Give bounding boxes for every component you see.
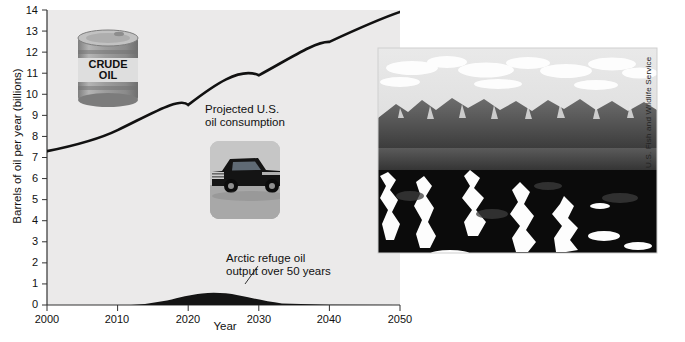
y-tick-label: 2	[8, 256, 38, 268]
x-tick-label: 2050	[378, 313, 422, 325]
annotation-projected-consumption: Projected U.S. oil consumption	[205, 103, 285, 129]
series-arctic-refuge-area	[47, 293, 400, 305]
arctic-photo-graphic	[378, 48, 658, 258]
y-tick-label: 14	[8, 4, 38, 16]
figure-oil-consumption: CRUDE OIL	[0, 0, 685, 342]
x-axis-label: Year	[180, 320, 270, 332]
x-tick-label: 2040	[307, 313, 351, 325]
annotation-line-2: oil consumption	[205, 116, 285, 129]
y-tick-label: 0	[8, 298, 38, 310]
pickup-truck-graphic	[210, 141, 288, 219]
annotation-line-1: Projected U.S.	[205, 103, 285, 116]
x-tick-label: 2000	[25, 313, 69, 325]
photo-credit: U.S. Fish and Wildlife Service	[644, 48, 653, 168]
annotation-arctic-refuge: Arctic refuge oil output over 50 years	[226, 252, 331, 278]
y-tick-label: 1	[8, 277, 38, 289]
x-tick-label: 2010	[95, 313, 139, 325]
y-axis-label: Barrels of oil per year (billions)	[11, 36, 23, 256]
annotation-line-1: Arctic refuge oil	[226, 252, 331, 265]
crude-oil-barrel-graphic: CRUDE OIL	[78, 30, 138, 107]
barrel-label-line2: OIL	[99, 69, 118, 81]
chart-canvas: CRUDE OIL	[0, 0, 685, 342]
annotation-line-2: output over 50 years	[226, 265, 331, 278]
x-axis-ticks	[47, 305, 400, 311]
y-axis-ticks	[42, 10, 47, 305]
